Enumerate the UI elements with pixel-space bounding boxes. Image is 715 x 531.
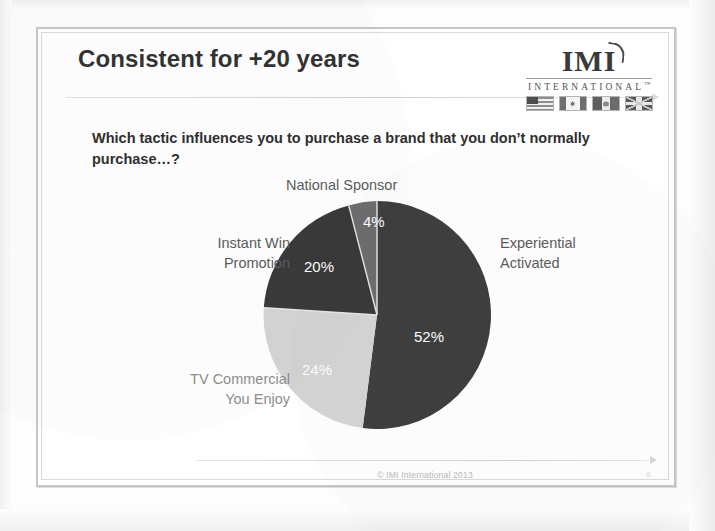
pie-value-tv-commercial: 24% (302, 361, 332, 378)
pie-label-instant-win-line1: Instant Win (166, 234, 290, 254)
flag-mexico-icon (592, 96, 620, 111)
trademark-symbol: ™ (644, 81, 650, 87)
scan-edge-right (689, 0, 715, 531)
pie-value-experiential: 52% (414, 328, 444, 345)
logo-subtitle-text: INTERNATIONAL (528, 82, 644, 92)
logo-subtitle: INTERNATIONAL™ (518, 81, 660, 92)
scan-edge-bottom (0, 509, 715, 531)
pie-label-tv-commercial: TV Commercial You Enjoy (146, 370, 290, 409)
pie-chart: 52% 24% 20% 4% National Sponsor Experien… (62, 176, 658, 436)
pie-label-instant-win-line2: Promotion (166, 254, 290, 274)
pie-label-experiential: Experiential Activated (500, 234, 576, 273)
flag-strip (518, 96, 660, 111)
pie-value-instant-win: 20% (304, 258, 334, 275)
pie-label-experiential-line2: Activated (500, 254, 576, 274)
pie-slice-experiential (363, 201, 491, 429)
survey-question-text: Which tactic influences you to purchase … (92, 128, 592, 170)
pie-value-national-sponsor: 4% (363, 213, 385, 230)
scanned-slide-page: Consistent for +20 years IMI INTERNATION… (0, 0, 715, 531)
flag-canada-icon (559, 96, 587, 111)
flag-uk-icon (625, 96, 653, 111)
pie-label-instant-win: Instant Win Promotion (166, 234, 290, 273)
scan-edge-left (0, 0, 12, 531)
page-number: 8 (646, 470, 650, 479)
pie-label-national-sponsor-line1: National Sponsor (286, 176, 397, 196)
pie-chart-graphic: 52% 24% 20% 4% (262, 200, 492, 430)
page-title: Consistent for +20 years (78, 45, 360, 73)
scan-edge-top (0, 0, 715, 10)
logo-swash-icon (606, 42, 626, 63)
footer-divider-rule (196, 460, 654, 461)
flag-usa-icon (526, 96, 554, 111)
logo-divider-rule (526, 78, 652, 79)
footer-rule-arrow-icon (650, 456, 657, 464)
pie-label-national-sponsor: National Sponsor (286, 176, 397, 196)
pie-label-tv-commercial-line1: TV Commercial (146, 370, 290, 390)
pie-label-experiential-line1: Experiential (500, 234, 576, 254)
pie-label-tv-commercial-line2: You Enjoy (146, 390, 290, 410)
logo-wordmark: IMI (562, 46, 617, 76)
pie-svg (262, 200, 492, 430)
imi-logo: IMI INTERNATIONAL™ (518, 46, 660, 111)
footer-copyright: © IMI International 2013 (196, 470, 654, 480)
